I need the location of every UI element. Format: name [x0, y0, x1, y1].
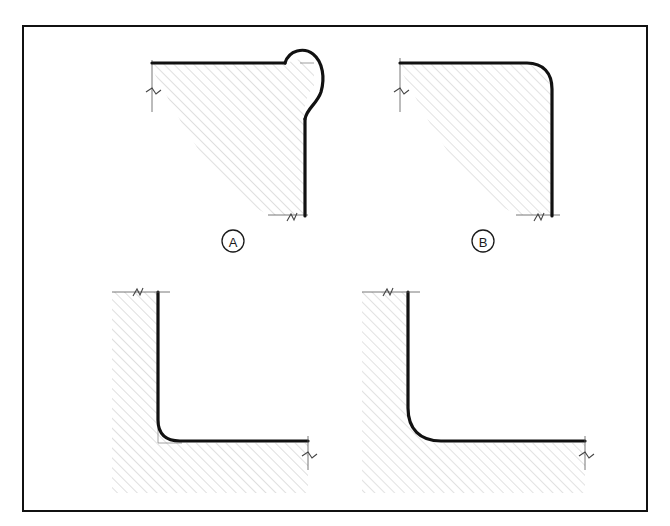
detail-b-callout-label: B	[479, 235, 488, 250]
detail-c-group	[112, 288, 317, 493]
detail-a-callout-label: A	[229, 235, 238, 250]
detail-b-group: B	[394, 58, 560, 252]
detail-a-group: A	[146, 50, 323, 252]
detail-c-material-bottom	[112, 443, 308, 493]
detail-c-material-left	[112, 292, 178, 443]
detail-c-outline	[158, 292, 308, 441]
detail-d-material-left	[362, 292, 440, 443]
detail-d-material-bottom	[362, 443, 585, 493]
drawing-page: A B	[0, 0, 670, 526]
detail-d-group	[362, 288, 594, 493]
detail-d-outline	[408, 292, 585, 441]
technical-drawing-figure: A B	[0, 0, 670, 526]
